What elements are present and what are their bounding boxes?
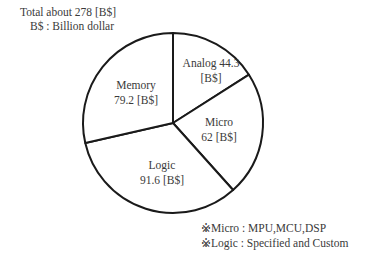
slice-label-analog: Analog 44.3 [B$] bbox=[183, 56, 240, 86]
slice-label-logic-value: 91.6 [B$] bbox=[140, 173, 184, 188]
footnote-logic: ※Logic : Specified and Custom bbox=[201, 236, 348, 250]
slice-label-analog-value: [B$] bbox=[183, 71, 240, 86]
slice-label-micro-name: Micro bbox=[201, 115, 236, 130]
slice-label-micro: Micro 62 [B$] bbox=[201, 115, 236, 145]
slice-label-memory: Memory 79.2 [B$] bbox=[114, 78, 158, 108]
slice-label-micro-value: 62 [B$] bbox=[201, 130, 236, 145]
footnote-micro: ※Micro : MPU,MCU,DSP bbox=[201, 221, 326, 235]
slice-label-memory-name: Memory bbox=[114, 78, 158, 93]
slice-label-logic: Logic 91.6 [B$] bbox=[140, 158, 184, 188]
slice-label-analog-name: Analog 44.3 bbox=[183, 56, 240, 71]
slice-label-memory-value: 79.2 [B$] bbox=[114, 93, 158, 108]
slice-label-logic-name: Logic bbox=[140, 158, 184, 173]
